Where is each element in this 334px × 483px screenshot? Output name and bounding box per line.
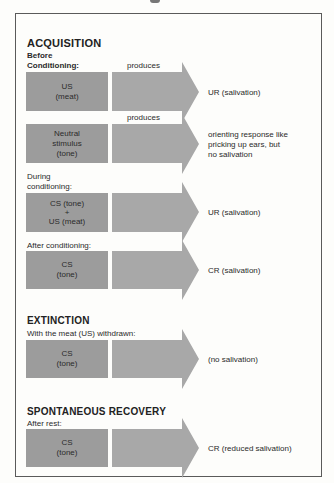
stimulus-text: + bbox=[49, 209, 85, 217]
response-ur: UR (salivation) bbox=[208, 88, 260, 98]
response-no-salivation: (no salivation) bbox=[208, 355, 258, 365]
response-ur-during: UR (salivation) bbox=[208, 208, 260, 218]
acquisition-heading: ACQUISITION bbox=[27, 37, 101, 49]
arrow-icon bbox=[112, 182, 200, 242]
stimulus-text: stimulus bbox=[52, 139, 81, 149]
stimulus-box-cs-plus-us: CS (tone)+US (meat) bbox=[26, 193, 108, 232]
stimulus-text: CS bbox=[57, 260, 78, 270]
arrow-icon bbox=[112, 418, 200, 478]
extinction-heading: EXTINCTION bbox=[27, 315, 90, 326]
response-text: pricking up ears, but bbox=[208, 140, 288, 150]
before-label-line1: Before bbox=[27, 51, 52, 60]
stimulus-box-cs-recovery: CS(tone) bbox=[26, 429, 108, 467]
stimulus-box-us-meat: US(meat) bbox=[26, 72, 108, 111]
during-label-line1: During bbox=[27, 172, 51, 181]
stimulus-box-neutral: Neutralstimulus(tone) bbox=[26, 124, 108, 163]
stimulus-text: (tone) bbox=[57, 359, 78, 369]
stimulus-text: CS bbox=[57, 349, 78, 359]
arrow-icon bbox=[112, 240, 200, 300]
recovery-label: After rest: bbox=[27, 419, 62, 428]
arrow-icon bbox=[112, 114, 200, 174]
stimulus-text: Neutral bbox=[52, 129, 81, 139]
response-text: no salivation bbox=[208, 150, 288, 160]
cropped-title-fragment bbox=[150, 0, 160, 3]
stimulus-text: (tone) bbox=[52, 149, 81, 159]
stimulus-text: (tone) bbox=[57, 448, 78, 458]
response-cr: CR (salivation) bbox=[208, 266, 260, 276]
response-reduced-salivation: CR (reduced salivation) bbox=[208, 444, 292, 454]
stimulus-box-cs-after: CS(tone) bbox=[26, 251, 108, 289]
before-label-line2: Conditioning: bbox=[27, 61, 79, 70]
response-orienting: orienting response like pricking up ears… bbox=[208, 130, 288, 160]
response-text: orienting response like bbox=[208, 130, 288, 140]
stimulus-text: CS bbox=[57, 438, 78, 448]
recovery-heading: SPONTANEOUS RECOVERY bbox=[27, 406, 166, 417]
stimulus-text: (meat) bbox=[55, 92, 78, 102]
stimulus-text: CS (tone) bbox=[49, 199, 85, 209]
stimulus-text: US (meat) bbox=[49, 217, 85, 227]
after-conditioning-label: After conditioning: bbox=[27, 241, 91, 250]
during-label-line2: conditioning: bbox=[27, 182, 72, 191]
arrow-icon bbox=[112, 329, 200, 389]
stimulus-text: (tone) bbox=[57, 270, 78, 280]
stimulus-box-cs-extinction: CS(tone) bbox=[26, 340, 108, 378]
stimulus-text: US bbox=[55, 82, 78, 92]
